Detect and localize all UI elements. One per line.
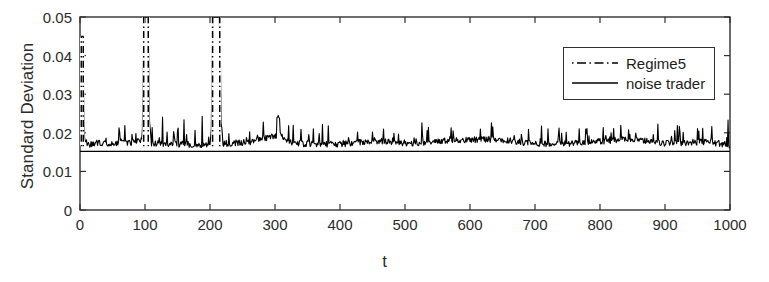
legend-label-regime5: Regime5 [626, 56, 686, 71]
legend-label-noise-trader: noise trader [626, 76, 705, 91]
x-tick-label: 200 [175, 216, 245, 233]
chart-figure: Standard Deviation t 00.010.020.030.040.… [0, 0, 769, 282]
x-tick-label: 800 [565, 216, 635, 233]
legend-swatch-solid-icon [571, 77, 619, 89]
axis-frame [80, 17, 730, 210]
y-tick-label: 0.01 [26, 163, 72, 180]
x-tick-label: 1000 [695, 216, 765, 233]
x-tick-label: 600 [435, 216, 505, 233]
chart-legend: Regime5 noise trader [563, 47, 715, 100]
legend-entry-noise-trader: noise trader [571, 73, 705, 93]
x-axis-title: t [0, 252, 769, 272]
x-axis-tick-labels: 01002003004005006007008009001000 [0, 216, 769, 240]
y-tick-label: 0.02 [26, 124, 72, 141]
x-tick-label: 300 [240, 216, 310, 233]
y-tick-label: 0.03 [26, 86, 72, 103]
x-tick-label: 400 [305, 216, 375, 233]
x-tick-label: 500 [370, 216, 440, 233]
legend-entry-regime5: Regime5 [571, 53, 705, 73]
x-tick-label: 100 [110, 216, 180, 233]
x-tick-label: 900 [630, 216, 700, 233]
axis-ticks [80, 17, 730, 210]
y-tick-label: 0.05 [26, 9, 72, 26]
y-tick-label: 0.04 [26, 47, 72, 64]
x-tick-label: 0 [45, 216, 115, 233]
x-tick-label: 700 [500, 216, 570, 233]
legend-swatch-dash-dot-icon [571, 57, 619, 69]
